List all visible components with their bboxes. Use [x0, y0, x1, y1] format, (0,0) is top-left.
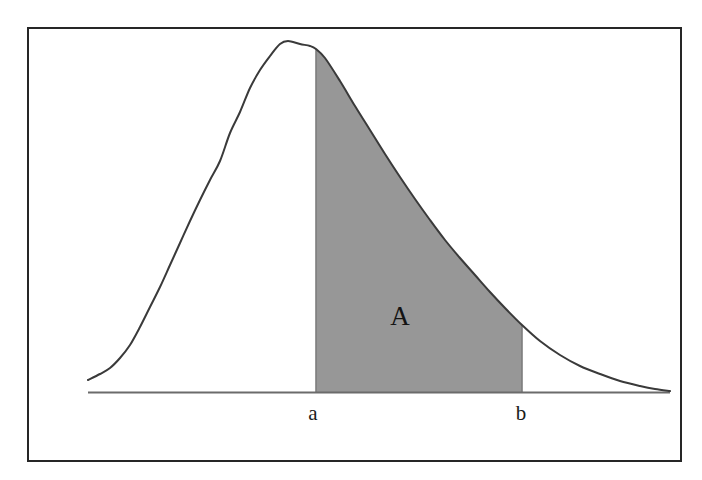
shaded-region-label: A	[380, 303, 420, 330]
shaded-area-between-a-and-b	[316, 49, 522, 392]
distribution-plot	[0, 0, 702, 480]
x-axis-label-a: a	[293, 403, 333, 424]
figure-canvas: a b A	[0, 0, 702, 480]
x-axis-label-b: b	[501, 403, 541, 424]
